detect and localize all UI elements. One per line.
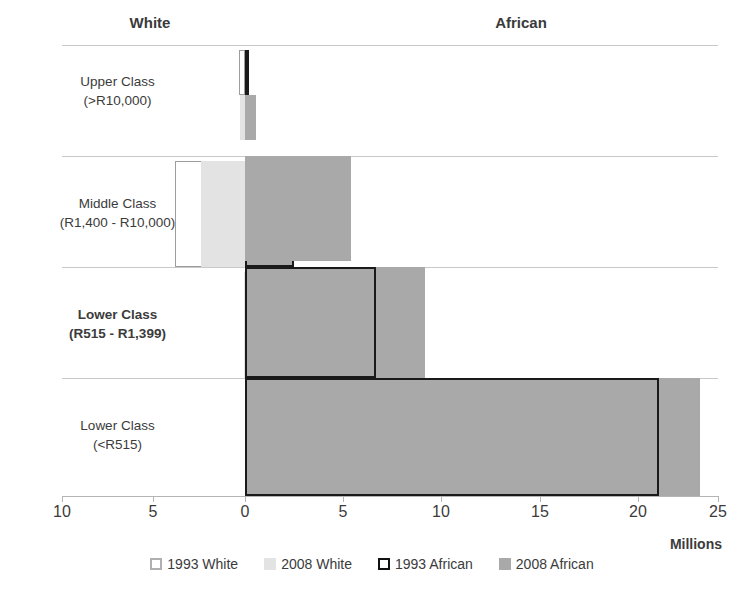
x-axis-tick-label: 20 xyxy=(629,503,647,521)
legend-item[interactable]: 1993 White xyxy=(150,556,238,572)
x-axis-tick-label: 10 xyxy=(432,503,450,521)
legend-item[interactable]: 2008 African xyxy=(499,556,594,572)
x-axis-tick xyxy=(343,496,344,502)
gridline xyxy=(62,156,718,157)
x-axis-tick-label: 5 xyxy=(149,503,158,521)
legend-item[interactable]: 1993 African xyxy=(378,556,473,572)
category-label-line1: Lower Class xyxy=(30,416,205,435)
x-axis-line xyxy=(62,496,718,497)
category-label-upper-class: Upper Class (>R10,000) xyxy=(30,72,205,110)
x-axis-tick xyxy=(245,496,246,502)
category-label-line1: Lower Class xyxy=(30,305,205,324)
x-axis-tick-label: 25 xyxy=(709,503,727,521)
axis-unit-label: Millions xyxy=(670,536,722,552)
group-header-white: White xyxy=(130,14,171,31)
bar-2008-african-middle-class xyxy=(245,156,351,261)
legend-label: 1993 African xyxy=(395,556,473,572)
bar-1993-african-lower-class-mid xyxy=(245,267,376,378)
category-label-lower-class-mid: Lower Class (R515 - R1,399) xyxy=(30,305,205,343)
x-axis-tick xyxy=(441,496,442,502)
bar-1993-african-upper-class xyxy=(245,50,249,95)
chart-container: White African Upper Class (>R10,000) Mid… xyxy=(0,0,744,595)
bar-2008-white-middle-class xyxy=(201,161,245,267)
legend-swatch-icon xyxy=(378,558,390,570)
chart-legend: 1993 White2008 White1993 African2008 Afr… xyxy=(0,556,744,572)
legend-swatch-icon xyxy=(499,558,511,570)
x-axis-tick-label: 0 xyxy=(241,503,250,521)
x-axis-tick xyxy=(153,496,154,502)
x-axis-tick-label: 5 xyxy=(339,503,348,521)
legend-label: 2008 White xyxy=(281,556,352,572)
group-header-african: African xyxy=(495,14,547,31)
legend-item[interactable]: 2008 White xyxy=(264,556,352,572)
x-axis-tick-label: 10 xyxy=(53,503,71,521)
legend-label: 2008 African xyxy=(516,556,594,572)
bar-2008-african-upper-class xyxy=(245,95,256,140)
category-label-line2: (>R10,000) xyxy=(30,91,205,110)
category-label-line2: (R515 - R1,399) xyxy=(30,324,205,343)
x-axis-tick-label: 15 xyxy=(531,503,549,521)
x-axis-tick xyxy=(718,496,719,502)
category-label-lower-class-low: Lower Class (<R515) xyxy=(30,416,205,454)
category-label-line2: (<R515) xyxy=(30,435,205,454)
x-axis-tick xyxy=(62,496,63,502)
legend-swatch-icon xyxy=(264,558,276,570)
x-axis-tick xyxy=(540,496,541,502)
legend-swatch-icon xyxy=(150,558,162,570)
gridline xyxy=(62,45,718,46)
bar-1993-african-lower-class-low xyxy=(245,378,659,496)
category-label-line1: Upper Class xyxy=(30,72,205,91)
legend-label: 1993 White xyxy=(167,556,238,572)
x-axis-tick xyxy=(638,496,639,502)
